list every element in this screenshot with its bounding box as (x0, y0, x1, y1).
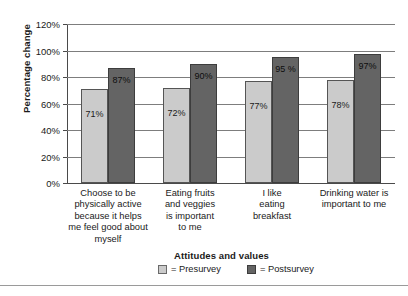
y-axis-tick (63, 183, 67, 184)
chart-legend: = Presurvey= Postsurvey (0, 264, 408, 274)
bar-value-label: 95 % (273, 64, 298, 74)
category-label-line: Drinking water is (309, 188, 399, 199)
x-axis-category-label: Choose to bephysically activebecause it … (63, 188, 153, 245)
bar-postsurvey: 95 % (272, 57, 299, 183)
x-axis-line (67, 183, 395, 184)
y-axis-tick-label: 100% (36, 45, 60, 56)
x-axis-category-label: I likeeatingbreakfast (227, 188, 317, 222)
y-axis-tick (63, 77, 67, 78)
category-label-line: and veggies (145, 199, 235, 210)
y-axis-tick (63, 157, 67, 158)
y-axis-title: Percentage change (21, 0, 32, 139)
y-axis-tick-label: 60% (41, 98, 60, 109)
bar-postsurvey: 87% (108, 68, 135, 183)
legend-item-presurvey: = Presurvey (158, 264, 221, 274)
category-label-line: physically active (63, 199, 153, 210)
category-label-line: breakfast (227, 211, 317, 222)
bar-value-label: 71% (82, 109, 107, 119)
bar-postsurvey: 90% (190, 64, 217, 183)
gridline (67, 24, 395, 25)
category-label-line: I like (227, 188, 317, 199)
x-axis-category-label: Eating fruitsand veggiesis importantto m… (145, 188, 235, 234)
plot-area: 0%20%40%60%80%100%120%71%87%72%90%77%95 … (67, 24, 395, 184)
gridline (67, 51, 395, 52)
bar-presurvey: 71% (81, 89, 108, 183)
bar-postsurvey: 97% (354, 54, 381, 183)
legend-label: = Postsurvey (260, 264, 314, 274)
y-axis-tick-label: 20% (41, 151, 60, 162)
bar-value-label: 78% (328, 100, 353, 110)
y-axis-tick-label: 80% (41, 72, 60, 83)
bar-presurvey: 78% (327, 80, 354, 183)
y-axis-tick (63, 51, 67, 52)
category-label-line: Choose to be (63, 188, 153, 199)
legend-swatch-icon (158, 265, 167, 274)
y-axis-tick (63, 24, 67, 25)
category-label-line: myself (63, 234, 153, 245)
category-label-line: Eating fruits (145, 188, 235, 199)
y-axis-tick-label: 120% (36, 19, 60, 30)
category-label-line: is important (145, 211, 235, 222)
bar-value-label: 87% (109, 75, 134, 85)
category-label-line: eating (227, 199, 317, 210)
bar-value-label: 90% (191, 71, 216, 81)
legend-label: = Presurvey (171, 264, 221, 274)
bar-value-label: 77% (246, 101, 271, 111)
x-axis-category-label: Drinking water isimportant to me (309, 188, 399, 211)
category-label-line: me feel good about (63, 222, 153, 233)
x-axis-title: Attitudes and values (0, 250, 408, 261)
bar-presurvey: 72% (163, 88, 190, 183)
category-label-line: because it helps (63, 211, 153, 222)
category-label-line: to me (145, 222, 235, 233)
bar-value-label: 97% (355, 61, 380, 71)
y-axis-tick-label: 40% (41, 125, 60, 136)
x-axis-title-text: Attitudes and values (139, 250, 269, 261)
y-axis-tick (63, 130, 67, 131)
bar-chart-figure: Percentage change 0%20%40%60%80%100%120%… (0, 0, 408, 296)
legend-item-postsurvey: = Postsurvey (247, 264, 314, 274)
legend-swatch-icon (247, 265, 256, 274)
category-label-line: important to me (309, 199, 399, 210)
y-axis-tick-label: 0% (46, 178, 60, 189)
y-axis-tick (63, 104, 67, 105)
bar-presurvey: 77% (245, 81, 272, 183)
bar-value-label: 72% (164, 108, 189, 118)
x-axis-category-labels: Choose to bephysically activebecause it … (67, 188, 395, 246)
bottom-divider (0, 285, 408, 286)
